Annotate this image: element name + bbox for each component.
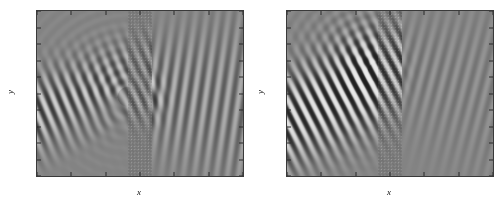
y-tick-mark-panel-a — [239, 159, 243, 160]
plot-area-panel-a: 2520151050-5-10-15-20-25-30-20-100102030 — [36, 10, 244, 177]
y-tick-mark-panel-b — [489, 159, 493, 160]
y-tick-mark-panel-b — [287, 126, 291, 127]
y-tick-mark-panel-a — [239, 110, 243, 111]
x-tick-mark-panel-b — [390, 11, 391, 15]
y-tick-mark-panel-b — [287, 110, 291, 111]
y-axis-label-panel-b: y — [256, 90, 265, 94]
x-tick-mark-panel-b — [287, 172, 288, 176]
x-tick-mark-panel-b — [355, 172, 356, 176]
y-tick-mark-panel-a — [37, 77, 41, 78]
y-tick-mark-panel-a — [239, 126, 243, 127]
x-tick-mark-panel-a — [105, 11, 106, 15]
y-tick-mark-panel-b — [489, 93, 493, 94]
x-tick-mark-panel-b — [424, 11, 425, 15]
figure-two-panel-field-maps: 2520151050-5-10-15-20-25-30-20-100102030… — [0, 0, 500, 210]
y-tick-mark-panel-b — [287, 143, 291, 144]
y-tick-mark-panel-a — [37, 44, 41, 45]
x-tick-mark-panel-a — [243, 172, 244, 176]
y-tick-mark-panel-b — [489, 77, 493, 78]
y-tick-mark-panel-a — [37, 126, 41, 127]
x-tick-mark-panel-b — [493, 172, 494, 176]
x-tick-mark-panel-b — [355, 11, 356, 15]
y-tick-mark-panel-b — [287, 159, 291, 160]
x-tick-mark-panel-a — [37, 11, 38, 15]
y-tick-mark-panel-b — [489, 60, 493, 61]
y-tick-mark-panel-a — [239, 60, 243, 61]
x-tick-mark-panel-b — [424, 172, 425, 176]
x-tick-mark-panel-a — [105, 172, 106, 176]
y-tick-mark-panel-a — [239, 27, 243, 28]
y-tick-mark-panel-a — [37, 11, 41, 12]
y-tick-mark-panel-b — [287, 27, 291, 28]
y-tick-mark-panel-b — [489, 27, 493, 28]
y-tick-mark-panel-a — [37, 110, 41, 111]
panel-a: 2520151050-5-10-15-20-25-30-20-100102030… — [0, 0, 250, 210]
x-tick-mark-panel-a — [174, 172, 175, 176]
y-tick-mark-panel-a — [239, 77, 243, 78]
y-tick-mark-panel-b — [287, 77, 291, 78]
y-tick-mark-panel-b — [489, 143, 493, 144]
plot-area-panel-b: 2520151050-5-10-15-20-25-30-20-100102030 — [286, 10, 494, 177]
y-tick-mark-panel-b — [489, 126, 493, 127]
x-tick-mark-panel-b — [390, 172, 391, 176]
panel-b: 2520151050-5-10-15-20-25-30-20-100102030… — [250, 0, 500, 210]
field-heatmap-panel-a — [37, 11, 243, 176]
y-tick-mark-panel-a — [37, 143, 41, 144]
y-tick-mark-panel-a — [239, 143, 243, 144]
y-tick-mark-panel-a — [37, 60, 41, 61]
x-tick-mark-panel-b — [287, 11, 288, 15]
y-axis-label-panel-a: y — [6, 90, 15, 94]
x-tick-mark-panel-b — [458, 172, 459, 176]
y-tick-mark-panel-b — [287, 176, 291, 177]
field-heatmap-panel-b — [287, 11, 493, 176]
y-tick-mark-panel-b — [287, 44, 291, 45]
x-tick-mark-panel-a — [208, 11, 209, 15]
y-tick-mark-panel-a — [37, 27, 41, 28]
x-tick-mark-panel-a — [208, 172, 209, 176]
x-tick-mark-panel-a — [140, 172, 141, 176]
x-tick-mark-panel-a — [71, 172, 72, 176]
y-tick-mark-panel-b — [287, 60, 291, 61]
x-tick-mark-panel-b — [321, 172, 322, 176]
x-tick-mark-panel-a — [174, 11, 175, 15]
x-tick-mark-panel-a — [140, 11, 141, 15]
x-tick-mark-panel-a — [243, 11, 244, 15]
x-tick-mark-panel-b — [458, 11, 459, 15]
y-tick-mark-panel-a — [37, 176, 41, 177]
x-tick-mark-panel-b — [321, 11, 322, 15]
y-tick-mark-panel-a — [239, 44, 243, 45]
x-axis-label-panel-b: x — [286, 188, 492, 197]
y-tick-mark-panel-a — [239, 93, 243, 94]
x-axis-label-panel-a: x — [36, 188, 242, 197]
y-tick-mark-panel-b — [489, 110, 493, 111]
y-tick-mark-panel-a — [37, 159, 41, 160]
y-tick-mark-panel-b — [489, 44, 493, 45]
x-tick-mark-panel-a — [37, 172, 38, 176]
y-tick-mark-panel-b — [287, 11, 291, 12]
x-tick-mark-panel-a — [71, 11, 72, 15]
y-tick-mark-panel-b — [287, 93, 291, 94]
x-tick-mark-panel-b — [493, 11, 494, 15]
y-tick-mark-panel-a — [37, 93, 41, 94]
